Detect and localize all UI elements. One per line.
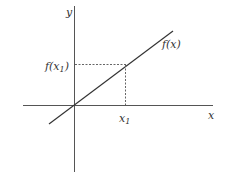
y-axis-label: y bbox=[65, 6, 73, 19]
function-line bbox=[49, 31, 173, 124]
fx1-label: f(x1) bbox=[44, 60, 69, 74]
function-label: f(x) bbox=[161, 38, 181, 51]
diagram-canvas: y x f(x) f(x1) x1 bbox=[0, 0, 230, 173]
x-axis-label: x bbox=[208, 109, 215, 122]
x1-label: x1 bbox=[119, 112, 130, 126]
